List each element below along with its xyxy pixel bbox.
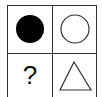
- shapes-layer: [0, 0, 103, 97]
- question-mark: ?: [18, 60, 42, 90]
- outline-triangle-icon: [60, 62, 91, 90]
- filled-circle-icon: [16, 15, 44, 43]
- outline-circle-icon: [61, 15, 89, 43]
